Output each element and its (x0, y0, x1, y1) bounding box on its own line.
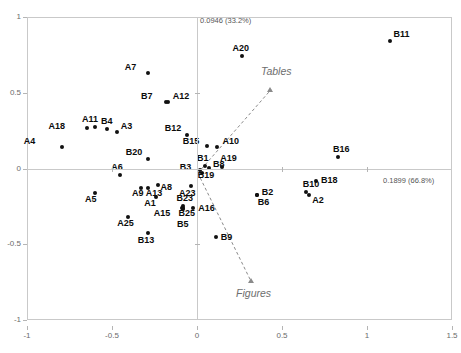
data-point (240, 54, 244, 58)
data-point-label: A10 (222, 137, 239, 146)
x-tick-mark (452, 326, 453, 330)
data-point-label: B18 (321, 176, 338, 185)
data-point (85, 126, 89, 130)
data-point-label: B9 (221, 233, 233, 242)
data-point-label: B2 (262, 188, 274, 197)
vector-label-figures: Figures (236, 288, 271, 298)
x-tick-label: 1.5 (439, 331, 461, 340)
data-point-label: B12 (165, 124, 182, 133)
data-point-label: A18 (49, 122, 66, 131)
y-tick-label: 0.5 (0, 88, 21, 97)
x-axis-zero-line (27, 169, 452, 170)
data-point-label: A5 (85, 195, 97, 204)
data-point-label: B19 (198, 171, 215, 180)
data-point-label: A25 (117, 219, 134, 228)
vector-marker-triangle (267, 87, 273, 92)
x-tick-mark (367, 326, 368, 330)
y-tick-label: 0 (0, 164, 21, 173)
data-point-label: A11 (82, 115, 98, 124)
data-point (118, 173, 122, 177)
data-point-label: B7 (141, 92, 153, 101)
y-tick-mark (23, 244, 27, 245)
y-tick-mark (23, 93, 27, 94)
data-point-label: A3 (121, 122, 133, 131)
data-point-label: A9 (132, 189, 144, 198)
data-point-label: A8 (161, 183, 173, 192)
data-point-label: B11 (394, 30, 410, 39)
data-point-label: A7 (125, 63, 137, 72)
data-point-label: B4 (101, 117, 113, 126)
x-tick-label: -1 (14, 331, 40, 340)
x-tick-mark (112, 326, 113, 330)
x-tick-mark (27, 326, 28, 330)
data-point-label: B16 (333, 145, 350, 154)
x-tick-label: 0.5 (269, 331, 295, 340)
x-tick-label: 1 (354, 331, 380, 340)
data-point (146, 157, 150, 161)
data-point-label: B5 (177, 220, 189, 229)
scatter-plot: TablesFiguresA4A18A11B4A3A7B7A12B20B12B1… (0, 0, 461, 353)
x-tick-label: 0 (184, 331, 210, 340)
data-point (388, 39, 392, 43)
data-point-label: B1 (197, 154, 209, 163)
x-tick-mark (197, 326, 198, 330)
vector-marker-triangle (248, 278, 254, 283)
x-tick-mark (282, 326, 283, 330)
x-axis-inner-tick (112, 167, 113, 172)
x-axis-variance-label: 0.1899 (66.8%) (383, 176, 434, 185)
data-point-label: A20 (233, 44, 250, 53)
data-point (214, 235, 218, 239)
y-axis-zero-line (197, 17, 198, 320)
data-point-label: A23 (179, 189, 196, 198)
data-point-label: A15 (154, 209, 171, 218)
data-point-label: A12 (173, 92, 190, 101)
data-point (60, 145, 64, 149)
data-point (205, 144, 209, 148)
x-axis-inner-tick (282, 167, 283, 172)
y-axis-inner-tick (195, 244, 200, 245)
y-tick-label: -0.5 (0, 239, 21, 248)
data-point-label: A2 (312, 196, 324, 205)
y-tick-label: -1 (0, 315, 21, 324)
y-axis-inner-tick (195, 93, 200, 94)
x-axis-inner-tick (367, 167, 368, 172)
data-point-label: A1 (144, 199, 156, 208)
data-point-label: A4 (24, 137, 36, 146)
y-tick-mark (23, 17, 27, 18)
y-tick-mark (23, 320, 27, 321)
data-point-label: B10 (303, 180, 320, 189)
data-point-label: B6 (258, 198, 270, 207)
y-tick-label: 1 (0, 12, 21, 21)
vector-label-tables: Tables (261, 66, 292, 76)
y-tick-mark (23, 169, 27, 170)
data-point-label: A19 (220, 154, 237, 163)
x-tick-label: -0.5 (99, 331, 125, 340)
data-point-label: B20 (126, 148, 143, 157)
y-axis-variance-label: 0.0946 (33.2%) (200, 16, 251, 25)
data-point-label: B13 (138, 236, 155, 245)
data-point-label: A16 (198, 204, 215, 213)
data-point-label: B3 (180, 163, 192, 172)
data-point (115, 130, 119, 134)
